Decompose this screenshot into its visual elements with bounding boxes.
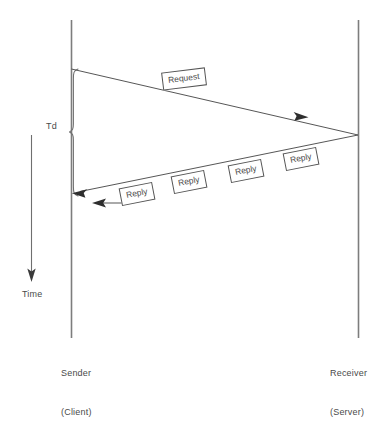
request-line xyxy=(72,69,359,135)
lifeline-label-sender: Sender (Client) xyxy=(61,341,92,421)
time-axis-label: Time xyxy=(22,289,42,299)
lifeline-label-sender-role: (Client) xyxy=(61,406,92,419)
lifeline-label-receiver-name: Receiver xyxy=(330,367,367,380)
duration-label-td: Td xyxy=(46,121,57,131)
lifeline-label-receiver-role: (Server) xyxy=(330,406,367,419)
lifeline-label-receiver: Receiver (Server) xyxy=(330,341,367,421)
request-arrowhead xyxy=(294,112,309,121)
lifeline-label-sender-name: Sender xyxy=(61,367,92,380)
